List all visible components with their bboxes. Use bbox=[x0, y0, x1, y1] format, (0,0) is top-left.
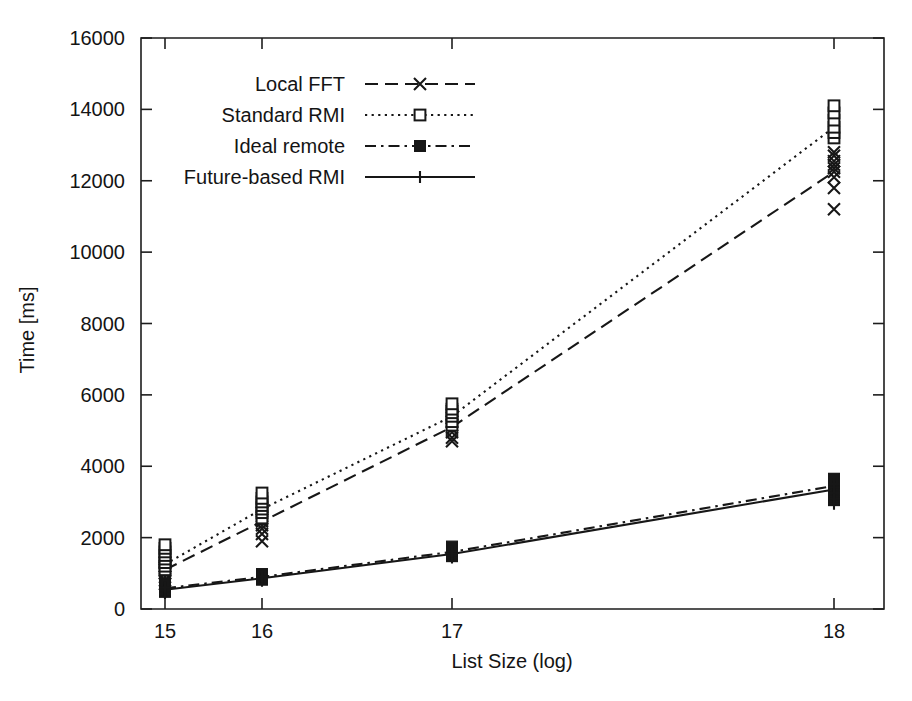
chart-canvas: 0200040006000800010000120001400016000 15… bbox=[0, 0, 912, 701]
y-tick-label: 12000 bbox=[69, 170, 125, 192]
y-tick-label: 16000 bbox=[69, 27, 125, 49]
data-point-marker bbox=[257, 488, 268, 499]
y-axis-label: Time [ms] bbox=[16, 286, 38, 373]
x-tick-label: 15 bbox=[154, 620, 176, 642]
data-point-marker bbox=[415, 110, 426, 121]
data-point-marker bbox=[447, 398, 458, 409]
legend-label-future-based-rmi: Future-based RMI bbox=[184, 166, 345, 188]
x-tick-label: 17 bbox=[441, 620, 463, 642]
chart-background bbox=[0, 0, 912, 701]
data-point-marker bbox=[160, 539, 171, 550]
y-tick-label: 2000 bbox=[81, 527, 126, 549]
y-tick-label: 4000 bbox=[81, 455, 126, 477]
legend-label-standard-rmi: Standard RMI bbox=[222, 104, 345, 126]
y-tick-label: 6000 bbox=[81, 384, 126, 406]
y-tick-label: 8000 bbox=[81, 313, 126, 335]
x-tick-label: 16 bbox=[251, 620, 273, 642]
y-tick-label: 0 bbox=[114, 598, 125, 620]
y-tick-label: 10000 bbox=[69, 241, 125, 263]
legend-label-local-fft: Local FFT bbox=[255, 73, 345, 95]
data-point-marker bbox=[415, 141, 426, 152]
x-axis-label: List Size (log) bbox=[451, 650, 572, 672]
legend-label-ideal-remote: Ideal remote bbox=[234, 135, 345, 157]
x-tick-label: 18 bbox=[823, 620, 845, 642]
data-point-marker bbox=[829, 100, 840, 111]
chart-figure: 0200040006000800010000120001400016000 15… bbox=[0, 0, 912, 701]
y-tick-label: 14000 bbox=[69, 98, 125, 120]
